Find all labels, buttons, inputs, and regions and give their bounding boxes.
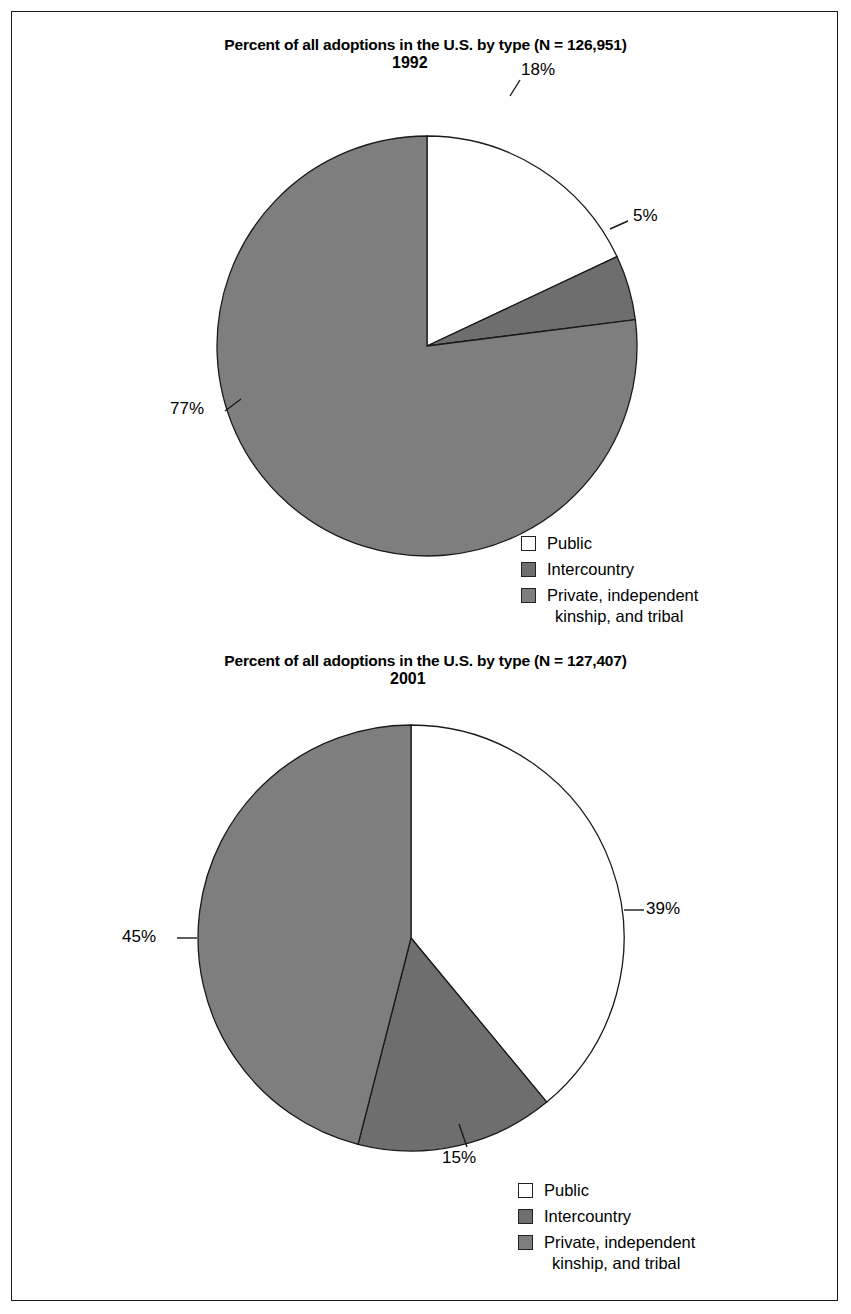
legend-label-private-line2: kinship, and tribal (544, 1253, 695, 1275)
legend-label-private: Private, independent kinship, and tribal (547, 585, 698, 629)
pct-label-intercountry-2001: 15% (442, 1148, 476, 1168)
legend-item-public-2001[interactable]: Public (518, 1180, 695, 1202)
legend-label-private-line2: kinship, and tribal (547, 606, 698, 628)
leader-line-public-1992 (510, 80, 520, 96)
legend-label-public: Public (547, 533, 592, 555)
legend-item-intercountry-2001[interactable]: Intercountry (518, 1206, 695, 1228)
legend-swatch-public-icon (521, 536, 536, 551)
pie-slices-2001 (198, 725, 624, 1151)
pie-chart-2001 (12, 670, 839, 1230)
pie-area-1992: 1992 18% 5% 77% (12, 54, 839, 584)
legend-2001: Public Intercountry Private, independent… (518, 1180, 695, 1279)
legend-label-intercountry: Intercountry (547, 559, 634, 581)
legend-label-private-line1: Private, independent (544, 1233, 695, 1251)
pie-chart-1992 (12, 54, 839, 584)
chart-title-1992: Percent of all adoptions in the U.S. by … (12, 36, 839, 54)
pct-label-public-2001: 39% (646, 899, 680, 919)
pie-area-2001: 2001 39% 45% 15% (12, 670, 839, 1230)
legend-label-intercountry: Intercountry (544, 1206, 631, 1228)
pct-label-private-2001: 45% (122, 927, 156, 947)
pct-label-private-1992: 77% (170, 399, 204, 419)
legend-1992: Public Intercountry Private, independent… (521, 533, 698, 632)
pct-label-public-1992: 18% (521, 60, 555, 80)
pct-label-intercountry-1992: 5% (633, 206, 658, 226)
leader-line-intercountry-1992 (610, 221, 628, 229)
page-root: Percent of all adoptions in the U.S. by … (0, 0, 851, 1314)
figure-frame: Percent of all adoptions in the U.S. by … (11, 11, 838, 1301)
pie-slices-1992 (217, 136, 637, 556)
legend-item-private-2001[interactable]: Private, independent kinship, and tribal (518, 1232, 695, 1276)
legend-swatch-private-icon (518, 1235, 533, 1250)
legend-label-public: Public (544, 1180, 589, 1202)
legend-swatch-intercountry-icon (521, 562, 536, 577)
legend-item-intercountry-1992[interactable]: Intercountry (521, 559, 698, 581)
legend-label-private: Private, independent kinship, and tribal (544, 1232, 695, 1276)
chart-title-2001: Percent of all adoptions in the U.S. by … (12, 652, 839, 670)
legend-item-private-1992[interactable]: Private, independent kinship, and tribal (521, 585, 698, 629)
legend-label-private-line1: Private, independent (547, 586, 698, 604)
legend-swatch-intercountry-icon (518, 1209, 533, 1224)
legend-item-public-1992[interactable]: Public (521, 533, 698, 555)
legend-swatch-private-icon (521, 588, 536, 603)
chart-panel-1992: Percent of all adoptions in the U.S. by … (12, 22, 839, 642)
legend-swatch-public-icon (518, 1183, 533, 1198)
chart-panel-2001: Percent of all adoptions in the U.S. by … (12, 640, 839, 1290)
